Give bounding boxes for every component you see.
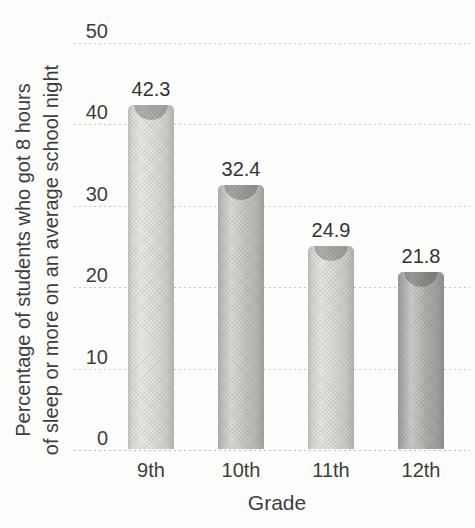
x-axis-title: Grade	[242, 492, 312, 514]
y-axis-title-line1: Percentage of students who got 8 hours	[9, 40, 37, 480]
value-label-11th: 24.9	[296, 220, 366, 240]
bar-chart: Percentage of students who got 8 hours o…	[0, 0, 475, 528]
y-tick-label-20: 20	[56, 265, 108, 285]
y-tick-label-10: 10	[56, 347, 108, 367]
value-label-10th: 32.4	[206, 159, 276, 179]
y-tick-label-40: 40	[56, 102, 108, 122]
value-label-12th: 21.8	[386, 246, 456, 266]
bar-9th	[128, 105, 174, 449]
y-tick-label-50: 50	[56, 21, 108, 41]
bar-12th	[398, 272, 444, 449]
y-tick-label-30: 30	[56, 184, 108, 204]
x-tick-label-12th: 12th	[386, 459, 456, 481]
x-tick-label-11th: 11th	[296, 459, 366, 481]
x-tick-label-9th: 9th	[116, 459, 186, 481]
gridline-50	[74, 42, 470, 44]
bar-11th	[308, 246, 354, 449]
y-tick-label-0: 0	[56, 428, 108, 448]
x-axis-baseline	[74, 449, 470, 451]
bar-10th	[218, 185, 264, 449]
value-label-9th: 42.3	[116, 79, 186, 99]
x-tick-label-10th: 10th	[206, 459, 276, 481]
